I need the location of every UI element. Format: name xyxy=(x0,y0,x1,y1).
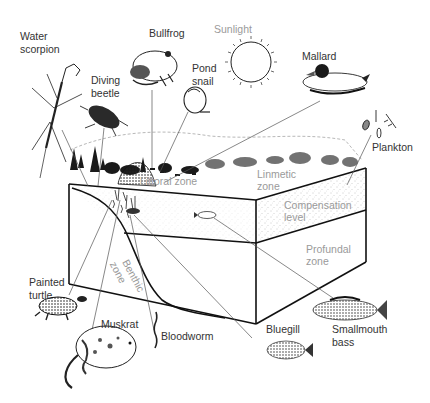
muskrat-icon xyxy=(65,326,136,388)
label-littoral-zone: Littoral zone xyxy=(140,175,197,187)
label-muskrat: Muskrat xyxy=(101,318,138,330)
label-pond-snail: Pond snail xyxy=(192,62,219,87)
label-plankton: Plankton xyxy=(372,141,413,153)
label-water-scorpion: Water scorpion xyxy=(20,30,60,55)
shoreline-landscape xyxy=(70,132,362,186)
pond-snail-icon xyxy=(184,87,210,113)
label-profundal-zone: Profundal zone xyxy=(306,243,354,267)
bottom-front-edge xyxy=(69,284,256,324)
lake-ecosystem-diagram: Water scorpion Bullfrog Diving beetle Po… xyxy=(0,0,430,403)
label-diving-beetle: Diving beetle xyxy=(91,74,123,99)
label-bloodworm: Bloodworm xyxy=(161,330,214,342)
label-sunlight: Sunlight xyxy=(214,23,252,35)
plankton-icon xyxy=(361,110,396,138)
front-stipple xyxy=(69,184,256,243)
bluegill-icon xyxy=(267,341,313,359)
bloodworm-icon xyxy=(154,312,157,348)
mallard-icon xyxy=(303,64,370,94)
label-bluegill: Bluegill xyxy=(266,323,300,335)
label-bullfrog: Bullfrog xyxy=(149,27,185,39)
label-mallard: Mallard xyxy=(302,50,337,62)
label-limnetic-zone: Linmetic zone xyxy=(257,168,299,192)
label-benthic-zone: Benthic zone xyxy=(108,254,149,302)
sun-icon xyxy=(225,36,277,88)
label-smallmouth-bass: Smallmouth bass xyxy=(332,323,390,348)
smallmouth-bass-icon xyxy=(313,297,387,320)
bullfrog-icon xyxy=(130,51,177,86)
